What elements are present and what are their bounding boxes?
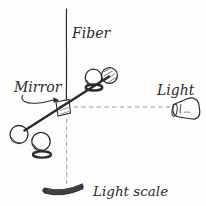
rod-ball-lower-left (10, 126, 28, 144)
mirror-pointer-arrow (22, 96, 54, 104)
lamp-filament (180, 105, 181, 114)
fiber-label: Fiber (71, 25, 111, 41)
rod-ball-upper-right-hatching (104, 69, 116, 82)
light-scale-arc (45, 184, 83, 195)
light-scale-label: Light scale (92, 183, 168, 199)
diagram-drawing: Fiber Mirror Light Light scale (0, 0, 206, 206)
mirror-label: Mirror (13, 79, 63, 95)
cavendish-torsion-balance-diagram: Fiber Mirror Light Light scale (0, 0, 206, 206)
lamp-interior-scribble (184, 112, 190, 113)
light-lamp (171, 98, 200, 119)
stand-ball-lower-left (32, 132, 50, 150)
light-label: Light (156, 82, 195, 98)
stand-ball-lower-left-shading (34, 145, 44, 151)
ball-stand-base-lower-left (33, 151, 51, 157)
